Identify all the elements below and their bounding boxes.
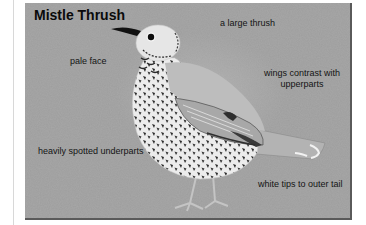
gutter-divider (13, 0, 14, 225)
label-underparts: heavily spotted underparts (38, 146, 144, 157)
label-size: a large thrush (220, 18, 275, 29)
label-tail: white tips to outer tail (258, 179, 343, 190)
label-wings: wings contrast with upperparts (257, 68, 347, 90)
identification-card: Mistle Thrush a large thrush pale face w… (25, 3, 352, 220)
label-wings-line1: wings contrast with (257, 68, 347, 79)
card-title: Mistle Thrush (34, 7, 125, 23)
label-wings-line2: upperparts (257, 79, 347, 90)
label-face: pale face (70, 56, 107, 67)
